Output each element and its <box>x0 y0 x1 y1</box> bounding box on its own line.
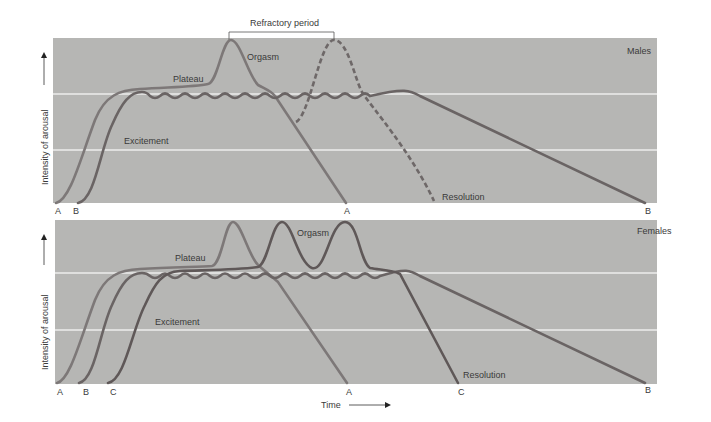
female-curve-c <box>108 222 458 383</box>
male-y-axis-label: Intensity of arousal <box>40 109 50 185</box>
male-curve-a-second-orgasm <box>296 40 434 201</box>
refractory-bracket <box>229 32 334 40</box>
male-end-label-b: B <box>645 206 651 216</box>
response-cycle-diagram <box>0 0 711 422</box>
female-start-label-c: C <box>110 387 117 397</box>
female-end-label-b: B <box>645 385 651 395</box>
y-arrow-head-bottom <box>41 234 47 240</box>
female-end-label-c: C <box>458 387 465 397</box>
female-resolution-label: Resolution <box>463 370 506 380</box>
refractory-period-label: Refractory period <box>250 18 319 28</box>
male-resolution-label: Resolution <box>442 192 485 202</box>
time-arrow-head <box>385 402 391 408</box>
male-curve-b <box>78 91 645 203</box>
female-end-label-a: A <box>346 387 352 397</box>
males-title: Males <box>627 46 651 56</box>
male-orgasm-label: Orgasm <box>247 52 279 62</box>
male-excitement-label: Excitement <box>124 136 169 146</box>
x-axis-label: Time <box>321 400 341 410</box>
female-excitement-label: Excitement <box>155 317 200 327</box>
female-plateau-label: Plateau <box>175 253 206 263</box>
females-title: Females <box>637 226 672 236</box>
male-end-label-a: A <box>344 206 350 216</box>
y-arrow-head-top <box>41 52 47 58</box>
female-start-label-b: B <box>83 387 89 397</box>
male-curve-a <box>56 40 346 203</box>
female-curve-a <box>57 222 347 383</box>
male-start-label-a: A <box>55 206 61 216</box>
male-plateau-label: Plateau <box>173 74 204 84</box>
female-start-label-a: A <box>57 387 63 397</box>
female-orgasm-label: Orgasm <box>297 228 329 238</box>
female-y-axis-label: Intensity of arousal <box>40 294 50 370</box>
male-start-label-b: B <box>73 206 79 216</box>
